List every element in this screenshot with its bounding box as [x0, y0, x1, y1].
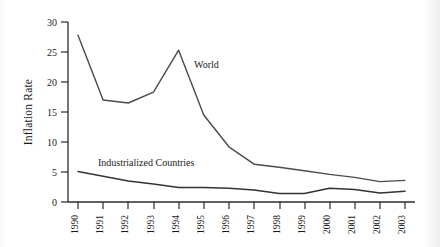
y-tick-label: 0 — [52, 197, 57, 208]
series-annotation-industrialized-countries: Industrialized Countries — [98, 157, 194, 168]
x-tick-label: 1992 — [120, 215, 130, 234]
y-tick-label: 10 — [47, 137, 57, 148]
x-tick-label: 1994 — [171, 215, 181, 234]
y-axis — [61, 22, 68, 202]
x-tick-label: 1998 — [272, 215, 282, 234]
x-tick-label: 1990 — [70, 215, 80, 234]
y-tick-label: 15 — [47, 107, 57, 118]
y-tick-label: 25 — [47, 47, 57, 58]
y-tick-label: 5 — [52, 167, 57, 178]
x-tick-label: 1997 — [246, 215, 256, 234]
x-tick-label: 2000 — [322, 215, 332, 234]
x-axis — [68, 202, 415, 209]
x-tick-label: 2001 — [347, 215, 357, 234]
inflation-rate-line-chart: Inflation Rate 30 25 20 15 10 5 0 — [0, 0, 440, 247]
y-tick-label: 30 — [47, 17, 57, 28]
series-annotation-world: World — [194, 59, 219, 70]
x-tick-label: 1995 — [196, 215, 206, 234]
x-axis-tick-labels: 1990 1991 1992 1993 1994 1995 1996 1997 … — [70, 215, 407, 234]
x-tick-label: 1999 — [297, 215, 307, 234]
x-tick-label: 2003 — [397, 215, 407, 234]
x-tick-label: 1991 — [95, 215, 105, 234]
x-tick-label: 2002 — [372, 215, 382, 234]
y-axis-tick-labels: 30 25 20 15 10 5 0 — [47, 17, 57, 208]
x-tick-label: 1993 — [146, 215, 156, 234]
series-line-industrialized-countries — [78, 171, 405, 193]
y-tick-label: 20 — [47, 77, 57, 88]
x-tick-label: 1996 — [221, 215, 231, 234]
chart-figure: Inflation Rate 30 25 20 15 10 5 0 — [0, 0, 440, 247]
y-axis-title: Inflation Rate — [22, 79, 34, 145]
